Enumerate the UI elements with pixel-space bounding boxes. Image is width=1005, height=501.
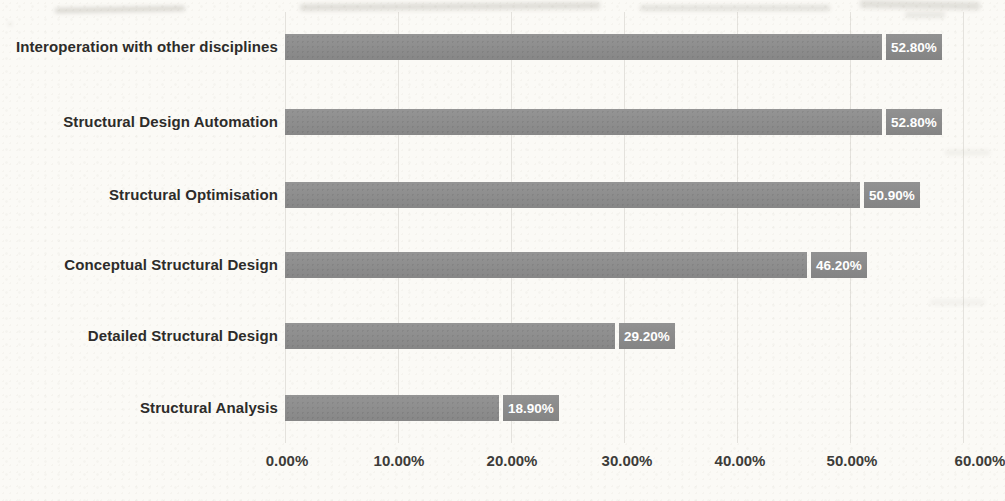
x-axis-tick-label: 40.00%: [715, 452, 766, 469]
x-axis-tick-label: 60.00%: [955, 452, 1005, 469]
category-label: Detailed Structural Design: [0, 327, 278, 344]
x-axis-tick-label: 20.00%: [487, 452, 538, 469]
bar: [285, 323, 615, 349]
x-axis-tick-label: 30.00%: [602, 452, 653, 469]
gridline: [850, 12, 851, 443]
x-axis-tick-label: 10.00%: [374, 452, 425, 469]
gridline: [511, 12, 512, 443]
gridline: [624, 12, 625, 443]
bar: [285, 252, 807, 278]
bar: [285, 34, 882, 60]
data-label: 29.20%: [619, 323, 675, 349]
gridline: [737, 12, 738, 443]
category-label: Interoperation with other disciplines: [0, 38, 278, 55]
category-label: Conceptual Structural Design: [0, 256, 278, 273]
data-label: 52.80%: [886, 109, 942, 135]
data-label: 18.90%: [503, 395, 559, 421]
data-label: 46.20%: [811, 252, 867, 278]
bar: [285, 182, 860, 208]
x-axis-tick-label: 0.00%: [266, 452, 309, 469]
bar: [285, 395, 499, 421]
x-axis-tick-label: 50.00%: [827, 452, 878, 469]
gridline: [398, 12, 399, 443]
category-label: Structural Analysis: [0, 399, 278, 416]
category-label: Structural Design Automation: [0, 113, 278, 130]
gridline: [285, 12, 286, 443]
data-label: 52.80%: [886, 34, 942, 60]
bar: [285, 109, 882, 135]
gridline: [963, 12, 964, 443]
category-label: Structural Optimisation: [0, 186, 278, 203]
data-label: 50.90%: [864, 182, 920, 208]
